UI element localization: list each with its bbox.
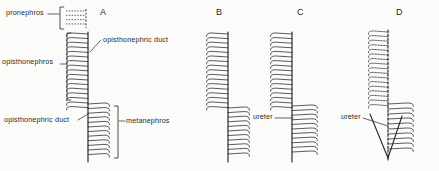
panel-c-opisthonephric-tubule	[271, 33, 292, 36]
panel-a-opisthonephric-tubule	[67, 74, 88, 77]
panel-d-opisthonephric-tubule	[369, 59, 388, 62]
panel-c-opisthonephric-tubule	[271, 79, 292, 82]
panel-b-metanephric-tubule	[228, 135, 249, 138]
panel-d-metanephric-tubule	[388, 123, 413, 126]
panel-a-opisthonephric-tubule	[67, 42, 88, 45]
panel-a-opisthonephric-tubule	[67, 84, 88, 87]
panel-c-metanephric-tubule	[292, 105, 317, 108]
panel-b-opisthonephric-tubule	[207, 70, 228, 73]
label-ureter-d: ureter	[341, 113, 361, 120]
panel-letter-b: B	[216, 8, 222, 17]
panel-b-opisthonephric-tubule	[207, 93, 228, 96]
ureter-branch-d	[388, 116, 402, 158]
panel-b-metanephric-tubule	[228, 112, 249, 115]
panel-a-metanephric-tubule	[88, 140, 109, 143]
panel-b-opisthonephric-tubule	[207, 102, 228, 105]
panel-letter-a: A	[100, 8, 106, 17]
panel-b-metanephric-tubule	[228, 148, 249, 151]
panel-letter-d: D	[396, 8, 403, 17]
panel-d-opisthonephric-tubule	[369, 72, 388, 75]
panel-c-opisthonephric-tubule	[271, 93, 292, 96]
panel-d-opisthonephric-tubule	[369, 63, 388, 66]
panel-d-metanephric-tubule	[388, 128, 413, 131]
opisthonephric-duct-top-leader	[90, 40, 101, 52]
ureter-stem-d	[370, 114, 388, 158]
panel-c-metanephric-tubule	[292, 151, 317, 154]
panel-b-opisthonephric-tubule	[207, 51, 228, 54]
panel-d-metanephric-tubule	[388, 138, 413, 141]
panel-a-metanephric-tubule	[88, 103, 109, 106]
ureter-d-leader	[363, 118, 388, 126]
opisthonephric-duct-bottom-leader	[78, 114, 88, 120]
panel-b-opisthonephric-tubule	[207, 88, 228, 91]
panel-c-opisthonephric-tubule	[271, 38, 292, 41]
panel-b-opisthonephric-tubule	[207, 33, 228, 36]
panel-d-opisthonephric-tubule	[369, 49, 388, 52]
panel-d-metanephric-tubule	[388, 133, 413, 136]
panel-d-opisthonephric-tubule	[369, 77, 388, 80]
panel-c	[271, 32, 318, 162]
label-metanephros: metanephros	[126, 117, 170, 124]
panel-b-metanephric-tubule	[228, 153, 249, 156]
panel-b-opisthonephric-tubule	[207, 47, 228, 50]
panel-a-metanephric-tubule	[88, 149, 109, 152]
pronephros-bracket	[60, 7, 64, 29]
diagram-svg	[0, 0, 439, 171]
panel-b-metanephric-tubule	[228, 139, 249, 142]
panel-a-opisthonephric-tubule	[67, 51, 88, 54]
panel-c-metanephric-tubule	[292, 119, 317, 122]
panel-c-opisthonephric-tubule	[271, 84, 292, 87]
panel-a-opisthonephric-tubule	[67, 79, 88, 82]
panel-d-opisthonephric-tubule	[369, 91, 388, 94]
panel-b	[207, 32, 250, 162]
panel-c-opisthonephric-tubule	[271, 70, 292, 73]
panel-a-metanephric-tubule	[88, 131, 109, 134]
panel-a	[66, 9, 109, 162]
panel-c-opisthonephric-tubule	[271, 56, 292, 59]
panel-b-metanephric-tubule	[228, 116, 249, 119]
panel-a-opisthonephric-tubule	[67, 38, 88, 41]
label-ureter-c: ureter	[253, 113, 273, 120]
panel-b-metanephric-tubule	[228, 144, 249, 147]
panel-b-metanephric-tubule	[228, 121, 249, 124]
panel-c-metanephric-tubule	[292, 146, 317, 149]
panel-c-opisthonephric-tubule	[271, 102, 292, 105]
panel-d-opisthonephric-tubule	[369, 100, 388, 103]
panel-d-opisthonephric-tubule	[369, 105, 388, 108]
panel-a-opisthonephric-tubule	[67, 56, 88, 59]
panel-d-opisthonephric-tubule	[369, 40, 388, 43]
panel-d-opisthonephric-tubule	[369, 82, 388, 85]
panel-c-metanephric-tubule	[292, 110, 317, 113]
panel-a-metanephric-tubule	[88, 126, 109, 129]
panel-c-opisthonephric-tubule	[271, 88, 292, 91]
panel-a-metanephric-tubule	[88, 117, 109, 120]
panel-b-opisthonephric-tubule	[207, 38, 228, 41]
panel-c-opisthonephric-tubule	[271, 51, 292, 54]
panel-d-ureter-fork	[370, 114, 402, 158]
panel-b-opisthonephric-tubule	[207, 97, 228, 100]
panel-a-metanephric-tubule	[88, 108, 109, 111]
panel-c-opisthonephric-tubule	[271, 61, 292, 64]
panel-d-metanephric-tubule	[388, 148, 413, 151]
panel-c-opisthonephric-tubule	[271, 107, 292, 110]
panel-c-metanephric-tubule	[292, 137, 317, 140]
label-pronephros: pronephros	[6, 9, 44, 16]
panel-b-metanephric-tubule	[228, 125, 249, 128]
panel-c-metanephric-tubule	[292, 123, 317, 126]
panel-c-opisthonephric-tubule	[271, 47, 292, 50]
label-opisthonephric-duct-bottom: opisthonephric duct	[4, 116, 69, 123]
panel-a-opisthonephric-tubule	[67, 107, 88, 110]
panel-a-metanephric-tubule	[88, 144, 109, 147]
panel-a-metanephric-tubule	[88, 112, 109, 115]
panel-a-metanephric-tubule	[88, 135, 109, 138]
panel-d-opisthonephric-tubule	[369, 54, 388, 57]
panel-a-metanephric-tubule	[88, 121, 109, 124]
label-opisthonephric-duct-top: opisthonephric duct	[103, 36, 168, 43]
panel-d-metanephric-tubule	[388, 108, 413, 111]
panel-d-opisthonephric-tubule	[369, 95, 388, 98]
panel-b-metanephric-tubule	[228, 107, 249, 110]
panel-a-opisthonephric-tubule	[67, 33, 88, 36]
panel-d-metanephric-tubule	[388, 103, 413, 106]
panel-a-metanephric-tubule	[88, 154, 109, 157]
panel-c-metanephric-tubule	[292, 133, 317, 136]
